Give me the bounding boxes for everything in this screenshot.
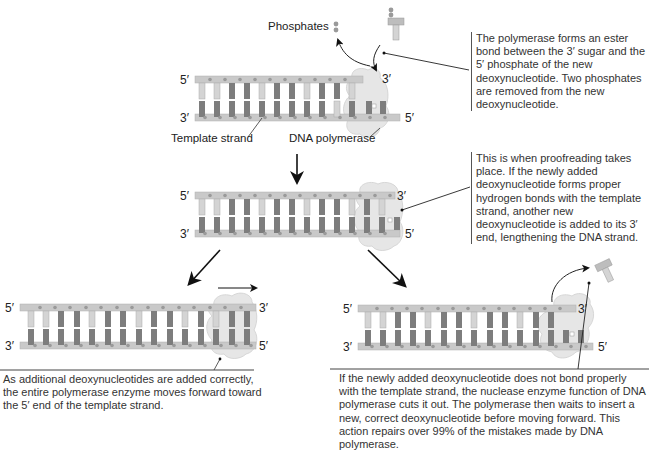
strand-end-3prime: 3′ (382, 72, 391, 86)
panel-4-dna (358, 294, 594, 358)
step-arrow-2-to-3b (368, 250, 404, 285)
strand-end-5prime: 5′ (180, 73, 189, 87)
strand-end-3prime: 3′ (578, 302, 587, 316)
excised-nucleotide-icon (595, 259, 618, 285)
strand-end-3prime: 3′ (180, 227, 189, 241)
caption-step-3-correct: As additional deoxynucleotides are added… (3, 373, 263, 413)
strand-end-3prime: 3′ (259, 301, 268, 315)
nucleotide-entry-arrow (374, 45, 380, 70)
panel-2-dna (195, 182, 403, 250)
phosphate-release-arrow (338, 40, 370, 66)
strand-end-5prime: 5′ (405, 111, 414, 125)
strand-end-5prime: 5′ (598, 340, 607, 354)
panel-1-dna (195, 68, 400, 137)
strand-end-5prime: 5′ (343, 302, 352, 316)
step-arrow-2-to-3a (190, 250, 220, 283)
strand-end-3prime: 3′ (5, 339, 14, 353)
panel-3-dna (20, 293, 257, 358)
incoming-nucleotide-icon (388, 8, 404, 40)
strand-end-5prime: 5′ (405, 227, 414, 241)
caption-step-1: The polymerase forms an ester bond betwe… (471, 32, 646, 111)
strand-end-5prime: 5′ (5, 301, 14, 315)
phosphates-label: Phosphates (268, 20, 329, 33)
template-strand-label: Template strand (171, 132, 253, 145)
strand-end-3prime: 3′ (180, 111, 189, 125)
phosphates-icon (334, 22, 339, 33)
caption-step-3-incorrect: If the newly added deoxynucleotide does … (339, 372, 649, 451)
dna-polymerase-label: DNA polymerase (289, 132, 375, 145)
caption-step-2: This is when proofreading takes place. I… (471, 152, 646, 244)
strand-end-5prime: 5′ (180, 189, 189, 203)
strand-end-3prime: 3′ (343, 340, 352, 354)
strand-end-3prime: 3′ (397, 189, 406, 203)
strand-end-5prime: 5′ (259, 339, 268, 353)
